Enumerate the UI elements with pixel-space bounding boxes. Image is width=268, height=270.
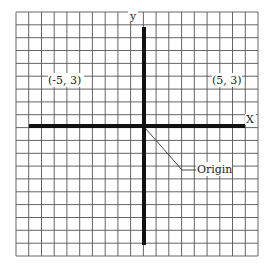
point-label-neg5-3: (-5, 3) — [48, 74, 81, 87]
x-axis-label: X — [246, 113, 254, 126]
origin-label: Origin — [197, 163, 232, 176]
point-label-5-3: (5, 3) — [212, 74, 242, 87]
coordinate-plane: y X (-5, 3) (5, 3) Origin — [0, 0, 268, 270]
grid — [16, 12, 258, 256]
origin-leader-line — [146, 129, 196, 170]
y-axis-label: y — [129, 10, 137, 23]
